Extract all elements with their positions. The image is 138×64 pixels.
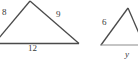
right-triangle-label-y: y <box>125 50 129 59</box>
right-triangle-right-side <box>128 8 138 45</box>
left-triangle-label-9: 9 <box>56 10 61 19</box>
triangles-canvas <box>0 0 138 64</box>
left-triangle-label-12: 12 <box>28 44 37 53</box>
geometry-figure: 8 9 12 6 y <box>0 0 138 64</box>
left-triangle-label-8: 8 <box>2 8 7 17</box>
left-triangle <box>0 1 79 44</box>
right-triangle-label-6: 6 <box>102 18 107 27</box>
left-triangle-right-side <box>30 1 79 44</box>
